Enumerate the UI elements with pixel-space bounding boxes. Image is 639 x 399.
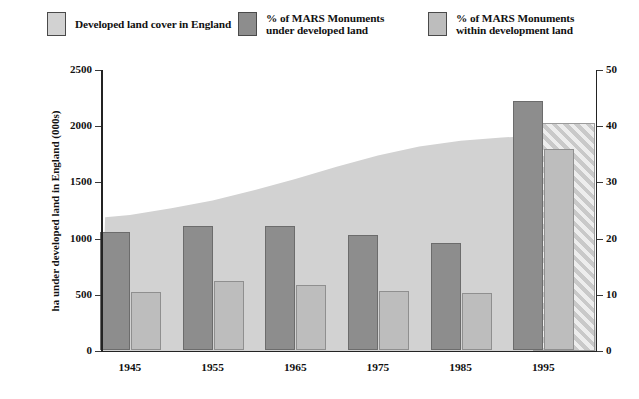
bar-1985-under xyxy=(431,243,461,350)
x-axis-tick-label-1965: 1965 xyxy=(284,361,307,373)
bar-1945-within xyxy=(131,292,161,350)
bar-1975-under xyxy=(348,235,378,350)
y-axis-right-tick-label: 10 xyxy=(606,288,617,300)
x-axis-tick-label-1975: 1975 xyxy=(367,361,390,373)
y-axis-left-line xyxy=(101,70,103,352)
x-axis-tick-label-1985: 1985 xyxy=(449,361,472,373)
bar-1965-under xyxy=(265,226,295,350)
bar-1945-under xyxy=(100,232,130,350)
plot-area: 05001000150020002500 01020304050 1945195… xyxy=(101,70,597,352)
bar-series-group xyxy=(101,70,597,351)
legend-swatch-under-icon xyxy=(238,12,257,36)
chart-legend: Developed land cover in England % of MAR… xyxy=(0,0,639,48)
legend-item-developed-land-cover: Developed land cover in England xyxy=(47,12,231,36)
y-axis-left-tick xyxy=(95,239,101,240)
y-axis-right-tick xyxy=(597,182,603,183)
y-axis-right-tick xyxy=(597,126,603,127)
legend-swatch-area-icon xyxy=(47,12,66,36)
y-axis-left-tick-label: 1000 xyxy=(70,232,92,244)
y-axis-right-line xyxy=(596,70,598,352)
y-axis-right-tick-label: 40 xyxy=(606,119,617,131)
y-axis-right-tick xyxy=(597,295,603,296)
y-axis-right-tick-label: 30 xyxy=(606,175,617,187)
y-axis-left-tick xyxy=(95,351,101,352)
legend-swatch-within-icon xyxy=(428,12,447,36)
legend-item-monuments-under: % of MARS Monuments under developed land xyxy=(238,12,384,37)
bar-1955-under xyxy=(183,226,213,350)
y-axis-left-tick-label: 1500 xyxy=(70,175,92,187)
y-axis-right-tick xyxy=(597,239,603,240)
bar-1995-under xyxy=(513,101,543,351)
y-axis-left-tick xyxy=(95,126,101,127)
x-axis-tick-label-1955: 1955 xyxy=(201,361,224,373)
y-axis-right-tick-label: 0 xyxy=(606,344,612,356)
y-axis-left-tick xyxy=(95,70,101,71)
legend-label-monuments-within: % of MARS Monuments within development l… xyxy=(456,12,574,37)
y-axis-left-tick-label: 2500 xyxy=(70,63,92,75)
y-axis-left-tick-label: 0 xyxy=(87,344,93,356)
x-axis-line xyxy=(101,351,597,353)
bar-1985-within xyxy=(462,293,492,350)
y-axis-left-tick-label: 2000 xyxy=(70,119,92,131)
y-axis-left-tick xyxy=(95,182,101,183)
y-axis-left-tick xyxy=(95,295,101,296)
bar-1965-within xyxy=(296,285,326,350)
legend-label-developed-land-cover: Developed land cover in England xyxy=(75,18,231,30)
y-axis-right-tick-label: 50 xyxy=(606,63,617,75)
y-axis-left-tick-label: 500 xyxy=(76,288,93,300)
x-axis-tick-label-1995: 1995 xyxy=(532,361,555,373)
legend-item-monuments-within: % of MARS Monuments within development l… xyxy=(428,12,574,37)
y-axis-right-tick xyxy=(597,70,603,71)
y-axis-right-tick-label: 20 xyxy=(606,232,617,244)
bar-1955-within xyxy=(214,281,244,350)
bar-1995-within xyxy=(544,149,574,350)
y-axis-right-tick xyxy=(597,351,603,352)
bar-1975-within xyxy=(379,291,409,350)
chart-figure: Developed land cover in England % of MAR… xyxy=(0,0,639,399)
x-axis-tick-label-1945: 1945 xyxy=(119,361,142,373)
y-axis-left-title: ha under developed land in England (000s… xyxy=(49,111,61,312)
legend-label-monuments-under: % of MARS Monuments under developed land xyxy=(266,12,384,37)
